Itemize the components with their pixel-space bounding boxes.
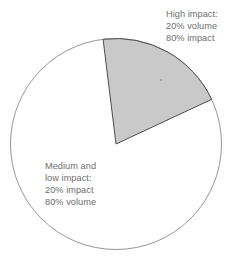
pie-chart-figure: High impact: 20% volume 80% impact Mediu… [0, 0, 239, 265]
wedge-dot-mark [160, 79, 162, 81]
annotation-high-impact-line-2: 20% volume [166, 20, 218, 32]
annotation-high-impact-line-1: High impact: [166, 8, 218, 20]
annotation-medium-low-impact-line-3: 20% impact [45, 184, 96, 196]
annotation-medium-low-impact-line-1: Medium and [45, 160, 96, 172]
annotation-medium-low-impact-line-2: low impact: [45, 172, 96, 184]
annotation-medium-low-impact-line-4: 80% volume [45, 196, 96, 208]
annotation-medium-low-impact: Medium and low impact: 20% impact 80% vo… [45, 160, 96, 208]
annotation-high-impact-line-3: 80% impact [166, 32, 218, 44]
annotation-high-impact: High impact: 20% volume 80% impact [166, 8, 218, 44]
